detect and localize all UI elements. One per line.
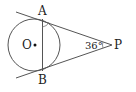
label-p: P — [114, 38, 122, 52]
center-dot — [34, 44, 37, 47]
label-a: A — [37, 4, 47, 18]
tangent-circle-diagram: A B O P 36° — [0, 0, 136, 92]
label-o: O — [22, 38, 32, 52]
label-angle-p: 36° — [85, 40, 103, 51]
label-b: B — [38, 73, 47, 87]
